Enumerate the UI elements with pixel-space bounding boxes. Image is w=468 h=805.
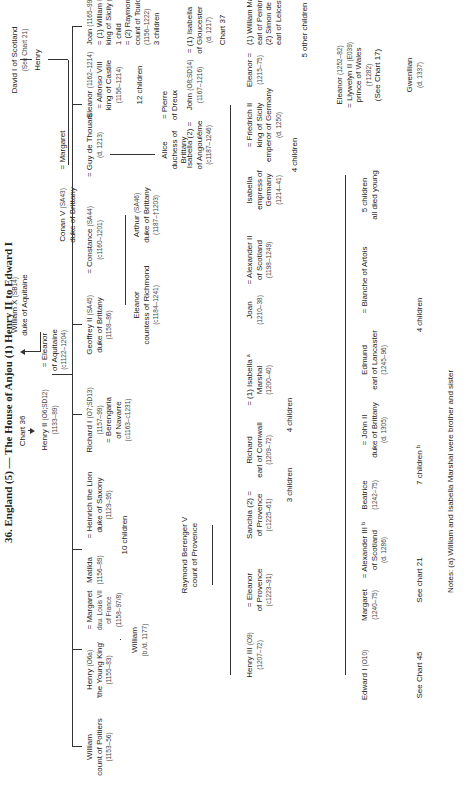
genealogy-chart: 36. England (5) — The House of Anjou (1)… [0, 0, 468, 805]
isabella-marshal: = (1) Isabella ᵃMarshal(1200–40) [245, 354, 274, 406]
matilda: Matilda(1156–89) [85, 555, 104, 584]
joan-scotland: Joan(1210–38) [245, 295, 264, 325]
eleanor-castile: Eleanor (1162–1214)= Alfonso VIIIking of… [85, 52, 123, 118]
alexander-ii: = Alexander IIof Scotland(1198–1249) [245, 235, 274, 284]
henry-young-king: Henry (O6a)'the Young King'(1155–83) [85, 642, 114, 699]
chart37-ref: Chart 37 [218, 15, 228, 46]
castile-children: 12 children [135, 65, 145, 104]
richard-children: 4 children [285, 398, 295, 433]
friedrich-ii: = Friedrich IIking of Sicilyemperor of G… [245, 88, 283, 162]
david-ref: (See Chart 21) [20, 29, 30, 72]
isabella-gloucester: = (1) Isabellaof Gloucester(d. 1217) [185, 6, 214, 54]
richard-i: Richard I (O7;SD13)(1157–99)= Berengaria… [85, 387, 133, 452]
margaret-france: = Margaretdau. Louis VIIof France(1158–9… [85, 590, 123, 630]
margaret-scotland: Margaret(1240–75) [360, 589, 379, 621]
eleanor-llywelyn: Eleanor (1252–82)= Llywelyn II (E039)pri… [335, 42, 383, 108]
sanchia-children: 3 children [285, 468, 295, 503]
arrow-down-icon [30, 428, 35, 434]
eleanor-marshal: Eleanor =(1215–75) [245, 53, 264, 87]
david-i: David I of Scotland [10, 26, 20, 93]
eleanor-other-children: 5 other children [300, 2, 310, 57]
died-young: 5 childrenall died young [360, 170, 379, 219]
edmund-children: 4 children [415, 298, 425, 333]
chart21-ref: See chart 21 [415, 557, 425, 602]
conan: Conan V (SA43)duke of Brittany [58, 187, 77, 243]
isabella-children: 4 children [290, 138, 300, 173]
richard-cornwall: Richardearl of Cornwall(1209–72) [245, 422, 274, 478]
eleanor-husbands: (1) William Marshal ᵃearl of Pembroke (d… [245, 0, 283, 45]
edmund: Edmundearl of Lancaster(1245–96) [360, 330, 389, 390]
william-poitiers: Williamcount of Poitiers(1153–56) [85, 718, 114, 775]
william-child: William(b./d. 1177) [130, 624, 149, 657]
eleanor-aquitaine: = Eleanorof Aquitaine(c1122–1204) [40, 329, 69, 371]
edward-i: Edward I (O10) [360, 650, 370, 700]
notes: Notes: (a) William and Isabella Marshal … [446, 370, 455, 593]
john: John (O8;SD14)(1167–1216) [185, 60, 204, 111]
arthur: Arthur (SA46)duke of Brittany(1187–†1203… [132, 187, 161, 243]
isabella-empress: Isabellaempress ofGermany(1214–41) [245, 170, 283, 210]
john-ii: = John IIduke of Brittany(d. 1305) [360, 402, 389, 458]
joan-sicily: Joan (1165–99)= (1) William IIking of Si… [85, 0, 161, 45]
beatrice: Beatrice(1242–75) [360, 480, 379, 510]
heinrich-lion: = Heinrich the Lionduke of Saxony(1129–9… [85, 472, 114, 539]
gwenllian: Gwenllian(d. 1337) [405, 57, 424, 92]
eleanor-richmond: Eleanorcountess of Richmond(c1184–1241) [132, 265, 161, 344]
matilda-children: 10 children [120, 515, 130, 554]
margaret-scot: = Margaret [58, 131, 68, 170]
chart36-ref: Chart 36 [18, 416, 28, 447]
guy-thouars: = Guy de Thouars(d. 1213) [85, 113, 104, 177]
henry-iii: Henry III (O9)(1207–72) [245, 632, 264, 677]
blanche-artois: = Blanche of Artois [360, 247, 370, 314]
alexander-iii: = Alexander III ᵇof Scotland(d. 1286) [360, 522, 389, 579]
henry-ii: Henry II (O6;SD12)(1133–89) [40, 389, 59, 450]
pierre-dreux: = Pierreof Dreux [160, 90, 179, 120]
chart45-ref: See Chart 45 [415, 651, 425, 698]
constance: = Constance (SA44)(c1160–1201) [85, 206, 104, 274]
beatrice-children: 7 children ᵇ [415, 445, 425, 485]
raymond-berenger: Raymond Berenger Vcount of Provence [180, 517, 199, 594]
isabella-angouleme: Isabella (2) =of Angoulême(c1187–1246) [185, 121, 214, 170]
sanchia: Sanchia (2) =of Provence(c1225–61) [245, 491, 274, 539]
henry-scot: Henry [33, 49, 43, 70]
william-x: William X (SB14)duke of Aquitaine [10, 274, 29, 335]
geoffrey-ii: Geoffrey II (SA45)duke of Brittany(1158–… [85, 295, 114, 355]
eleanor-provence: = Eleanorof Provence(c1223–91) [245, 569, 274, 612]
arrow-up-icon [20, 349, 25, 355]
